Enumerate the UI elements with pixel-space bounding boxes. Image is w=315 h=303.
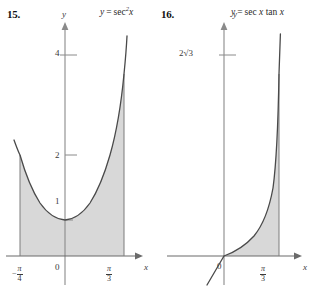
figure-15: 15. y=sec2x y x 0 1 2 4 − π 4 π 3 bbox=[0, 0, 157, 303]
x-axis-arrow-15 bbox=[135, 253, 143, 260]
plot-canvas-15 bbox=[0, 0, 157, 303]
x-axis-arrow-16 bbox=[294, 253, 302, 260]
plot-canvas-16 bbox=[157, 0, 315, 303]
y-axis-arrow-15 bbox=[62, 22, 69, 30]
figure-16: 16. y=sec x tan x y x 0 2√3 π 3 bbox=[157, 0, 315, 303]
y-axis-arrow-16 bbox=[221, 22, 228, 30]
shaded-area-16 bbox=[224, 74, 279, 256]
shaded-area-15 bbox=[20, 74, 124, 256]
